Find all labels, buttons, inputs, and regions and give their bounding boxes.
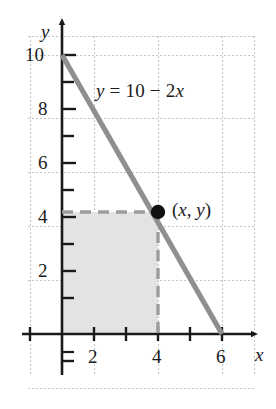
point-close-paren: ) xyxy=(205,199,211,220)
data-point xyxy=(151,205,165,219)
equation-equals: = xyxy=(110,80,121,101)
y-axis-label: y xyxy=(41,22,49,41)
y-tick-label-8: 8 xyxy=(38,99,48,118)
x-tick-label-2: 2 xyxy=(88,347,98,366)
point-x-term: x xyxy=(178,199,186,220)
graph-figure: y x 10 8 6 4 2 2 4 6 y = 10 − 2x (x, y) xyxy=(0,0,276,409)
shaded-rectangle xyxy=(62,212,158,334)
x-axis-label: x xyxy=(255,345,263,364)
y-tick-label-6: 6 xyxy=(38,153,48,172)
y-tick-label-10: 10 xyxy=(25,45,44,64)
x-tick-label-4: 4 xyxy=(152,347,162,366)
x-axis-ticks xyxy=(30,327,222,352)
y-tick-label-4: 4 xyxy=(38,207,48,226)
point-y-term: y xyxy=(196,199,204,220)
point-annotation: (x, y) xyxy=(172,200,211,219)
equation-x-term: x xyxy=(175,80,184,101)
equation-coefficient: 2 xyxy=(166,80,176,101)
equation-y-term: y xyxy=(96,80,105,101)
y-tick-label-2: 2 xyxy=(38,261,48,280)
equation-constant: 10 xyxy=(125,80,144,101)
x-tick-label-6: 6 xyxy=(216,347,226,366)
equation-minus-sign: − xyxy=(150,80,161,101)
equation-annotation: y = 10 − 2x xyxy=(96,81,184,100)
